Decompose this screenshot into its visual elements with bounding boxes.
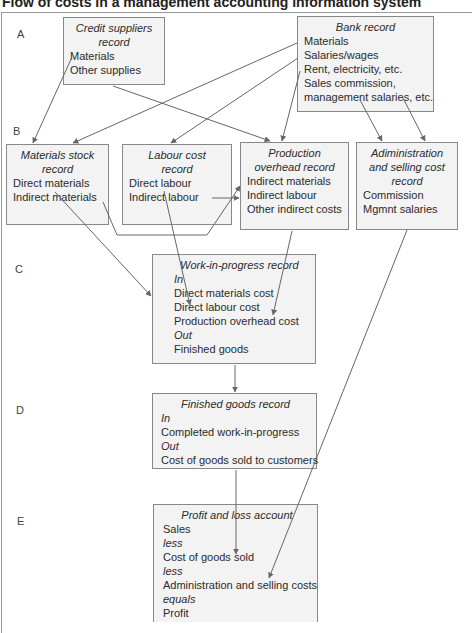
row-label-d: D <box>16 404 24 416</box>
row-label-b: B <box>13 125 20 137</box>
box-line: Mgmnt salaries <box>363 202 451 216</box>
finished-goods-record-box: Finished goods record In Completed work-… <box>152 393 317 469</box>
box-line: Rent, electricity, etc. <box>304 62 427 76</box>
materials-stock-record-box: Materials stock record Direct materials … <box>6 144 109 225</box>
box-line: Other indirect costs <box>247 202 342 216</box>
box-line: Completed work-in-progress <box>161 425 310 439</box>
box-heading: record <box>13 162 102 176</box>
box-line: Other supplies <box>70 63 158 77</box>
box-line: In <box>161 411 310 425</box>
box-line: Out <box>174 328 309 342</box>
box-line: Production overhead cost <box>174 314 309 328</box>
box-line: Commission <box>363 188 451 202</box>
profit-and-loss-account-box: Profit and loss account Sales less Cost … <box>153 504 318 622</box>
box-line: In <box>174 272 309 286</box>
box-line: Indirect labour <box>129 190 225 204</box>
box-heading: Labour cost <box>129 148 225 162</box>
box-line: Materials <box>304 34 427 48</box>
row-label-c: C <box>15 263 23 275</box>
row-label-a: A <box>17 28 24 40</box>
box-line: Indirect materials <box>247 174 342 188</box>
box-line: management salaries, etc. <box>304 90 427 104</box>
box-heading: Profit and loss account <box>163 508 311 522</box>
box-line: Direct materials cost <box>174 286 309 300</box>
box-heading: record <box>129 162 225 176</box>
box-line: Cost of goods sold to customers <box>161 453 310 467</box>
box-line: Profit <box>163 606 311 620</box>
box-line: Salaries/wages <box>304 48 427 62</box>
credit-suppliers-record-box: Credit suppliers record Materials Other … <box>63 17 165 85</box>
box-line: Indirect materials <box>13 190 102 204</box>
box-heading: Work-in-progress record <box>174 258 309 272</box>
box-heading: and selling cost <box>363 160 451 174</box>
box-heading: record <box>363 174 451 188</box>
box-line: less <box>163 536 311 550</box>
labour-cost-record-box: Labour cost record Direct labour Indirec… <box>122 144 232 225</box>
box-heading: Adiministration <box>363 146 451 160</box>
work-in-progress-record-box: Work-in-progress record In Direct materi… <box>152 254 316 364</box>
box-heading: Finished goods record <box>161 397 310 411</box>
box-heading: overhead record <box>247 160 342 174</box>
box-line: Out <box>161 439 310 453</box>
box-line: Direct labour <box>129 176 225 190</box>
box-heading: Bank record <box>304 20 427 34</box>
box-line: equals <box>163 592 311 606</box>
box-line: Materials <box>70 49 158 63</box>
production-overhead-record-box: Production overhead record Indirect mate… <box>240 142 349 230</box>
admin-selling-cost-record-box: Adiministration and selling cost record … <box>356 142 458 230</box>
row-label-e: E <box>17 515 24 527</box>
box-line: Cost of goods sold <box>163 550 311 564</box>
box-heading: record <box>70 35 158 49</box>
box-line: Indirect labour <box>247 188 342 202</box>
box-line: less <box>163 564 311 578</box>
bank-record-box: Bank record Materials Salaries/wages Ren… <box>297 16 434 112</box>
box-line: Finished goods <box>174 342 309 356</box>
box-heading: Production <box>247 146 342 160</box>
box-line: Direct materials <box>13 176 102 190</box>
box-heading: Materials stock <box>13 148 102 162</box>
box-line: Sales <box>163 522 311 536</box>
box-line: Administration and selling costs <box>163 578 311 592</box>
diagram-title: Flow of costs in a management accounting… <box>2 0 421 10</box>
box-heading: Credit suppliers <box>70 21 158 35</box>
box-line: Direct labour cost <box>174 300 309 314</box>
box-line: Sales commission, <box>304 76 427 90</box>
